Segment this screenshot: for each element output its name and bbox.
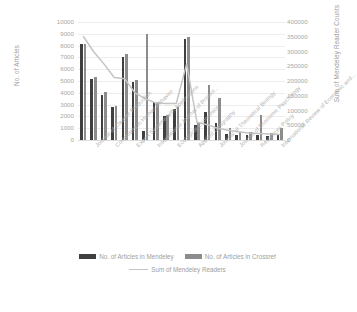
y-tick-left: 1000: [60, 125, 74, 131]
bar-group: [78, 22, 88, 140]
legend-item[interactable]: Sum of Mendeley Readers: [129, 266, 226, 273]
bar-crossref: [94, 77, 97, 140]
legend-label: No. of Articles in Crossref: [205, 253, 276, 260]
x-axis-labels: Journal of Cleaner ProductionComputers i…: [0, 140, 355, 248]
legend-label: Sum of Mendeley Readers: [151, 266, 226, 273]
legend-item[interactable]: No. of Articles in Crossref: [185, 253, 276, 260]
bar-mendeley: [80, 44, 83, 140]
bar-crossref: [84, 44, 87, 140]
y-tick-left: 10000: [57, 19, 74, 25]
bar-mendeley: [90, 79, 93, 140]
y-tick-left: 3000: [60, 102, 74, 108]
y-tick-left: 6000: [60, 66, 74, 72]
y-tick-right: 200000: [287, 78, 308, 84]
y-tick-left: 2000: [60, 113, 74, 119]
bar-group: [99, 22, 109, 140]
bar-crossref: [239, 132, 242, 140]
y-tick-left: 9000: [60, 31, 74, 37]
y-tick-left: 8000: [60, 43, 74, 49]
y-tick-right: 250000: [287, 63, 308, 69]
legend-bar-swatch: [185, 254, 202, 259]
y-tick-left: 5000: [60, 78, 74, 84]
y-axis-left-title: No. of Articles: [13, 26, 20, 106]
bar-mendeley: [122, 57, 125, 140]
legend-line-swatch: [129, 269, 148, 271]
bar-group: [88, 22, 98, 140]
y-tick-left: 4000: [60, 90, 74, 96]
bar-crossref: [125, 54, 128, 140]
y-tick-right: 300000: [287, 49, 308, 55]
bar-crossref: [146, 34, 149, 140]
legend-label: No. of Articles in Mendeley: [99, 253, 174, 260]
bar-mendeley: [184, 39, 187, 140]
y-tick-left: 7000: [60, 54, 74, 60]
chart-legend: No. of Articles in MendeleyNo. of Articl…: [0, 253, 355, 279]
legend-bar-swatch: [79, 254, 96, 259]
y-tick-right: 350000: [287, 34, 308, 40]
y-tick-right: 400000: [287, 19, 308, 25]
legend-item[interactable]: No. of Articles in Mendeley: [79, 253, 174, 260]
